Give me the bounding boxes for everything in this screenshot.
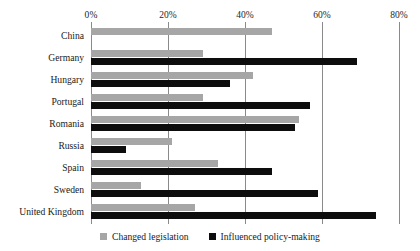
y-axis-category-label: China [61, 30, 84, 41]
y-axis-category-labels: ChinaGermanyHungaryPortugalRomaniaRussia… [0, 24, 88, 222]
x-axis-tick-label: 20% [159, 9, 177, 21]
plot-area [91, 24, 399, 222]
legend-item-influenced-policy-making: Influenced policy-making [209, 231, 320, 242]
bar [91, 182, 141, 189]
bar-group [91, 72, 399, 87]
bar-chart: 0%20%40%60%80% ChinaGermanyHungaryPortug… [0, 0, 420, 251]
bar [91, 190, 318, 197]
x-axis-tick-labels: 0%20%40%60%80% [0, 9, 420, 23]
bar-group [91, 28, 399, 43]
bar [91, 168, 272, 175]
bar [91, 160, 218, 167]
x-axis-tick-label: 60% [313, 9, 331, 21]
black-square-icon [209, 233, 216, 240]
bar [91, 146, 126, 153]
bar-group [91, 160, 399, 175]
legend-label: Changed legislation [112, 231, 188, 242]
legend-label: Influenced policy-making [221, 231, 320, 242]
bar [91, 80, 230, 87]
bar [91, 58, 357, 65]
bar-group [91, 204, 399, 219]
x-axis-tick-label: 40% [236, 9, 254, 21]
y-axis-category-label: United Kingdom [19, 206, 84, 217]
y-axis-category-label: Hungary [50, 74, 84, 85]
chart-legend: Changed legislation Influenced policy-ma… [0, 228, 420, 244]
bar [91, 138, 172, 145]
y-axis-category-label: Germany [48, 52, 84, 63]
legend-item-changed-legislation: Changed legislation [100, 231, 188, 242]
x-axis-tick-label: 80% [390, 9, 408, 21]
x-axis-tick-label: 0% [85, 9, 98, 21]
bar [91, 72, 253, 79]
y-axis-category-label: Spain [62, 162, 84, 173]
bar [91, 102, 310, 109]
y-axis-category-label: Sweden [54, 184, 84, 195]
bar [91, 204, 195, 211]
bar [91, 28, 272, 35]
bar [91, 94, 203, 101]
bar-group [91, 182, 399, 197]
gray-square-icon [100, 233, 107, 240]
bar [91, 212, 376, 219]
y-axis-category-label: Romania [49, 118, 84, 129]
bar [91, 124, 295, 131]
bar-group [91, 116, 399, 131]
bar-group [91, 94, 399, 109]
bar [91, 116, 299, 123]
gridline [399, 22, 400, 224]
y-axis-category-label: Russia [58, 140, 84, 151]
bar-group [91, 138, 399, 153]
bar [91, 50, 203, 57]
bar-group [91, 50, 399, 65]
y-axis-category-label: Portugal [51, 96, 84, 107]
